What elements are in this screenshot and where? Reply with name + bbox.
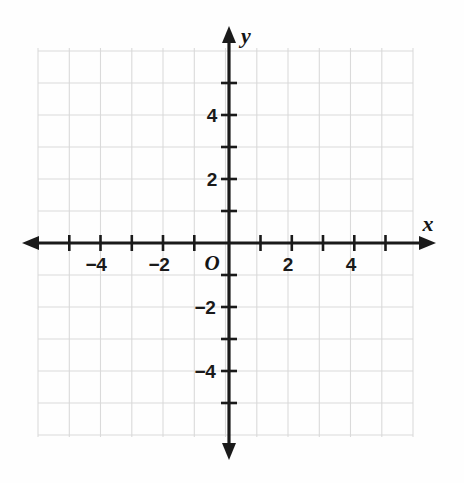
x-axis-arrow-left (22, 236, 39, 250)
x-tick-label-neg4: −4 (85, 255, 106, 274)
x-tick-label-pos2: 2 (283, 255, 293, 274)
y-tick-label-neg4: −4 (194, 362, 215, 381)
y-tick-label-pos2: 2 (207, 170, 217, 189)
coordinate-plane-figure: −4 −2 2 4 4 2 −2 −4 O y x (0, 0, 464, 483)
y-axis-label: y (241, 25, 251, 47)
origin-label: O (204, 253, 219, 274)
y-tick-label-neg2: −2 (194, 298, 215, 317)
x-tick-label-neg2: −2 (148, 255, 169, 274)
x-axis-label: x (423, 213, 434, 235)
y-tick-label-pos4: 4 (207, 106, 217, 125)
plot-svg (0, 0, 464, 483)
y-axis-arrow-down (222, 443, 236, 460)
x-tick-label-pos4: 4 (346, 255, 356, 274)
x-axis-arrow-right (419, 236, 436, 250)
y-axis-arrow-up (222, 26, 236, 43)
